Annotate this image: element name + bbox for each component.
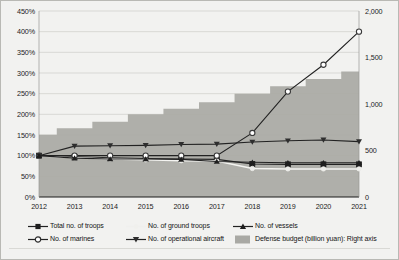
right-axis-tick-label: 500	[365, 146, 377, 155]
x-axis-tick-label: 2019	[272, 202, 304, 211]
left-axis-tick-label: 200%	[3, 110, 35, 119]
chart-container: 0%50%100%150%200%250%300%350%400%450% 05…	[0, 0, 399, 260]
legend-label: Defense budget (billion yuan): Right axi…	[255, 235, 377, 242]
filled-triangle-icon	[233, 222, 253, 231]
left-axis-tick-label: 300%	[3, 69, 35, 78]
x-axis-tick-label: 2016	[165, 202, 197, 211]
inverted-triangle-icon	[126, 235, 146, 244]
right-axis-tick-label: 0	[365, 193, 369, 202]
x-axis-tick-label: 2015	[130, 202, 162, 211]
chart-legend: Total no. of troops No. of ground troops…	[1, 217, 399, 260]
x-axis-tick-label: 2018	[236, 202, 268, 211]
legend-label: Total no. of troops	[50, 222, 104, 229]
x-axis-tick-label: 2017	[201, 202, 233, 211]
right-axis-tick-label: 1,000	[365, 100, 383, 109]
filled-square-icon	[28, 222, 48, 231]
legend-label: No. of ground troops	[148, 222, 210, 229]
x-axis-tick-label: 2012	[23, 202, 55, 211]
x-axis-tick-label: 2021	[343, 202, 375, 211]
left-axis-tick-label: 350%	[3, 48, 35, 57]
left-axis-tick-label: 100%	[3, 151, 35, 160]
light-circle-icon	[126, 222, 146, 231]
plot-area: 0%50%100%150%200%250%300%350%400%450% 05…	[1, 1, 399, 217]
legend-label: No. of marines	[50, 235, 94, 242]
legend-label: No. of operational aircraft	[148, 235, 224, 242]
right-axis-tick-label: 2,000	[365, 7, 383, 16]
area-swatch-icon	[233, 235, 253, 244]
left-axis-tick-label: 250%	[3, 89, 35, 98]
left-axis-tick-label: 450%	[3, 7, 35, 16]
budget-step-area	[39, 71, 359, 197]
left-axis-tick-label: 400%	[3, 27, 35, 36]
legend-label: No. of vessels	[255, 222, 298, 229]
x-axis-tick-label: 2013	[59, 202, 91, 211]
x-axis-tick-label: 2014	[94, 202, 126, 211]
open-circle-icon	[28, 235, 48, 244]
x-axis-tick-label: 2020	[307, 202, 339, 211]
left-axis-tick-label: 150%	[3, 131, 35, 140]
left-axis-tick-label: 0%	[3, 193, 35, 202]
right-axis-tick-label: 1,500	[365, 53, 383, 62]
chart-svg	[1, 1, 399, 217]
left-axis-tick-label: 50%	[3, 172, 35, 181]
